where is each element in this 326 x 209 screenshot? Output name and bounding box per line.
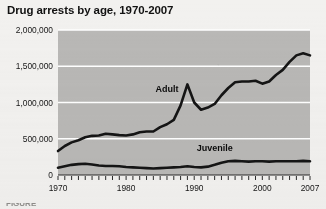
drug-arrests-line-chart: 0500,0001,000,0001,500,0002,000,000 1970… bbox=[0, 22, 326, 202]
bottom-cropped-caption: FIGURE bbox=[0, 203, 326, 209]
x-axis-tick-label: 2000 bbox=[253, 183, 272, 193]
bottom-cropped-caption-text: FIGURE bbox=[6, 203, 36, 208]
x-axis-tick-label: 1990 bbox=[185, 183, 204, 193]
page-title: Drug arrests by age, 1970-2007 bbox=[7, 4, 173, 16]
chart-figure: 0500,0001,000,0001,500,0002,000,000 1970… bbox=[0, 22, 326, 202]
x-axis-tick-labels: 19701980199020002007 bbox=[49, 183, 320, 193]
y-axis-tick-label: 0 bbox=[48, 170, 53, 180]
x-axis-tick-label: 1980 bbox=[117, 183, 136, 193]
series-label-juvenile: Juvenile bbox=[197, 143, 233, 153]
x-axis-ticks bbox=[58, 176, 310, 180]
y-axis-tick-labels: 0500,0001,000,0001,500,0002,000,000 bbox=[16, 25, 54, 180]
y-axis-tick-label: 2,000,000 bbox=[16, 25, 54, 35]
y-axis-tick-label: 1,500,000 bbox=[16, 61, 54, 71]
y-axis-tick-label: 1,000,000 bbox=[16, 98, 54, 108]
x-axis-tick-label: 1970 bbox=[49, 183, 68, 193]
series-label-adult: Adult bbox=[155, 84, 178, 94]
x-axis-tick-label: 2007 bbox=[301, 183, 320, 193]
y-axis-tick-label: 500,000 bbox=[23, 134, 54, 144]
